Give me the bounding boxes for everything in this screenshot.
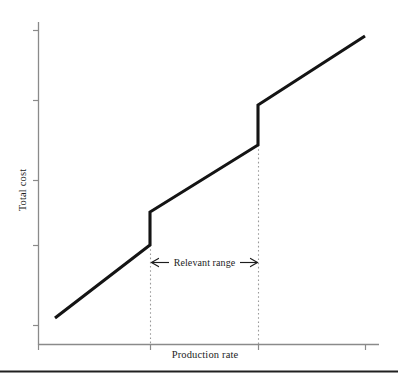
y-axis-ticks	[33, 31, 39, 326]
total-cost-series	[55, 36, 365, 318]
step-cost-line	[55, 36, 365, 318]
relevant-range-guides	[151, 145, 259, 344]
step-cost-figure: Relevant range Total cost Production rat…	[0, 0, 398, 377]
chart-canvas: Relevant range Total cost Production rat…	[0, 0, 398, 377]
y-axis-title: Total cost	[17, 169, 28, 211]
axes-group	[38, 22, 379, 345]
relevant-range-annotation: Relevant range	[152, 257, 258, 268]
x-axis-title: Production rate	[172, 349, 239, 360]
relevant-range-label: Relevant range	[174, 257, 236, 268]
